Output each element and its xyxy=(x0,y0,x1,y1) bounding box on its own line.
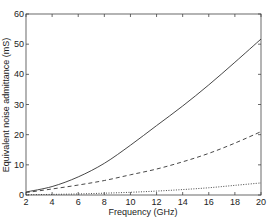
y-tick-label: 10 xyxy=(14,160,24,170)
series-dotted-line xyxy=(26,183,261,195)
x-tick-label: 20 xyxy=(256,197,266,207)
x-tick-label: 6 xyxy=(76,197,81,207)
series-layer xyxy=(26,39,261,195)
x-tick-label: 8 xyxy=(102,197,107,207)
x-tick-label: 4 xyxy=(50,197,55,207)
x-tick-label: 16 xyxy=(204,197,214,207)
y-tick-label: 30 xyxy=(14,100,24,110)
series-solid-line xyxy=(26,39,261,192)
x-tick-label: 2 xyxy=(23,197,28,207)
x-tick-label: 14 xyxy=(178,197,188,207)
y-tick-label: 60 xyxy=(14,9,24,19)
x-tick-label: 18 xyxy=(230,197,240,207)
x-axis-ticks: 2468101214161820 xyxy=(23,14,266,207)
x-axis-label: Frequency (GHz) xyxy=(108,207,177,217)
y-axis-label: Equivalent noise admittance (mS) xyxy=(1,38,11,173)
x-tick-label: 12 xyxy=(152,197,162,207)
plot-area xyxy=(26,14,261,195)
plot-frame xyxy=(26,14,261,195)
line-chart: 2468101214161820 0102030405060 Frequency… xyxy=(0,0,274,222)
y-tick-label: 40 xyxy=(14,69,24,79)
y-tick-label: 50 xyxy=(14,39,24,49)
y-tick-label: 20 xyxy=(14,130,24,140)
x-tick-label: 10 xyxy=(125,197,135,207)
y-tick-label: 0 xyxy=(19,190,24,200)
y-axis-ticks: 0102030405060 xyxy=(14,9,261,200)
